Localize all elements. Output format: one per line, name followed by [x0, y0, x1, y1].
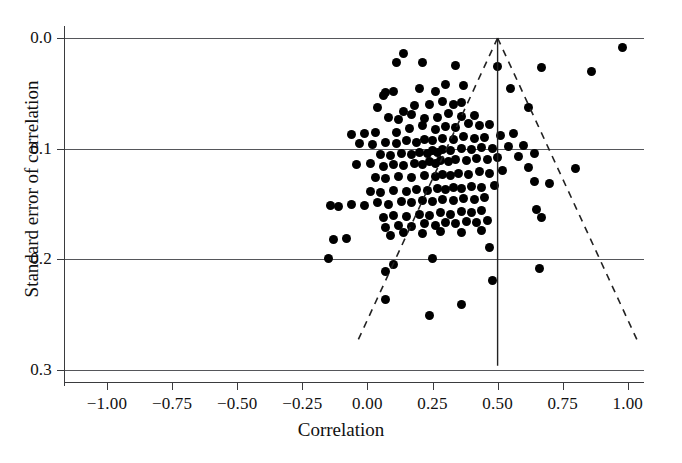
data-point — [347, 130, 356, 139]
data-point — [389, 160, 398, 169]
data-point — [428, 136, 437, 145]
data-point — [477, 183, 486, 192]
data-point — [366, 187, 375, 196]
data-point — [451, 61, 460, 70]
data-point — [329, 235, 338, 244]
data-point — [397, 149, 406, 158]
y-tick-mark — [57, 259, 65, 260]
data-point — [376, 150, 385, 159]
x-axis-title: Correlation — [0, 419, 682, 441]
data-point — [428, 254, 437, 263]
data-point — [496, 131, 505, 140]
data-point — [394, 115, 403, 124]
x-tick-label-3: −0.25 — [267, 395, 337, 412]
data-point — [438, 97, 447, 106]
data-point — [371, 128, 380, 137]
x-tick-mark — [433, 382, 434, 390]
data-point — [392, 139, 401, 148]
data-point — [402, 212, 411, 221]
data-point — [472, 154, 481, 163]
data-point — [459, 194, 468, 203]
data-point — [431, 87, 440, 96]
data-point — [441, 122, 450, 131]
gridline-y-0.3 — [64, 370, 644, 371]
data-point — [418, 229, 427, 238]
data-point — [530, 149, 539, 158]
data-point — [405, 124, 414, 133]
data-point — [467, 145, 476, 154]
x-tick-label-7: 0.75 — [528, 395, 598, 412]
data-point — [420, 171, 429, 180]
data-point — [524, 103, 533, 112]
data-point — [483, 155, 492, 164]
data-point — [462, 217, 471, 226]
data-point — [444, 109, 453, 118]
data-point — [446, 146, 455, 155]
data-point — [360, 201, 369, 210]
data-point — [441, 185, 450, 194]
y-tick-label-0.3: 0.3 — [6, 361, 52, 378]
data-point — [379, 213, 388, 222]
data-point — [386, 151, 395, 160]
x-tick-label-6: 0.50 — [463, 395, 533, 412]
data-point — [412, 138, 421, 147]
data-point — [399, 161, 408, 170]
data-point — [373, 198, 382, 207]
data-point — [477, 206, 486, 215]
data-point — [457, 98, 466, 107]
x-tick-mark — [563, 382, 564, 390]
data-point — [493, 153, 502, 162]
data-point — [451, 219, 460, 228]
data-point — [392, 58, 401, 67]
data-point — [368, 140, 377, 149]
data-point — [490, 181, 499, 190]
data-point — [462, 156, 471, 165]
data-point — [399, 228, 408, 237]
data-point — [524, 163, 533, 172]
data-point — [545, 179, 554, 188]
data-point — [446, 210, 455, 219]
data-point — [464, 170, 473, 179]
data-point — [384, 113, 393, 122]
data-point — [402, 136, 411, 145]
y-axis-title: Standard error of correlation — [21, 39, 43, 339]
data-point — [446, 171, 455, 180]
data-point — [381, 174, 390, 183]
data-point — [459, 132, 468, 141]
y-tick-mark — [57, 149, 65, 150]
data-point — [480, 133, 489, 142]
data-point — [423, 149, 432, 158]
data-point — [480, 193, 489, 202]
data-point — [397, 197, 406, 206]
data-point — [389, 260, 398, 269]
funnel-right-edge — [498, 38, 639, 342]
data-point — [519, 141, 528, 150]
data-point — [438, 134, 447, 143]
data-point — [407, 150, 416, 159]
data-point — [415, 210, 424, 219]
data-point — [389, 211, 398, 220]
y-tick-label-0.1: 0.1 — [6, 140, 52, 157]
x-tick-mark — [628, 382, 629, 390]
data-point — [483, 216, 492, 225]
data-point — [618, 43, 627, 52]
data-point — [355, 139, 364, 148]
data-point — [457, 300, 466, 309]
data-point — [504, 142, 513, 151]
y-tick-label-0.0: 0.0 — [6, 29, 52, 46]
data-point — [412, 185, 421, 194]
data-point — [475, 121, 484, 130]
data-point — [423, 186, 432, 195]
gridline-y-0.1 — [64, 149, 644, 150]
data-point — [410, 101, 419, 110]
x-tick-label-2: −0.50 — [202, 395, 272, 412]
data-point — [444, 157, 453, 166]
data-point — [459, 81, 468, 90]
data-point — [399, 49, 408, 58]
data-point — [402, 187, 411, 196]
data-point — [535, 264, 544, 273]
data-point — [457, 207, 466, 216]
data-point — [407, 173, 416, 182]
data-point — [394, 172, 403, 181]
data-point — [509, 129, 518, 138]
